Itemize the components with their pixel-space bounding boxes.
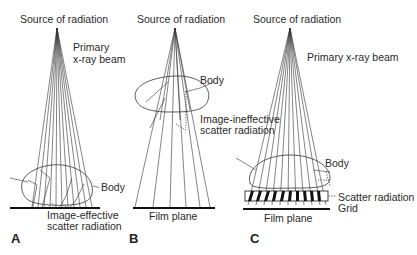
panel-a-source-label: Source of radiation <box>20 13 108 25</box>
panel-a-scatter-label-2: scatter radiation <box>47 220 122 232</box>
panel-a: Source of radiation Primary x-ray beam <box>10 13 126 246</box>
panel-b-body-label: Body <box>200 74 225 86</box>
panel-b-scatter-label-2: scatter radiation <box>200 124 275 136</box>
panel-b-body-outline <box>135 76 209 112</box>
scatter-radiation-diagram: Source of radiation Primary x-ray beam <box>0 0 417 255</box>
panel-b: Source of radiation Body Image-ineffecti… <box>129 13 280 246</box>
panel-a-scatter-marks <box>52 202 66 207</box>
panel-c-body-label: Body <box>325 157 350 169</box>
panel-b-film-label: Film plane <box>149 210 198 222</box>
panel-c-beam-label: Primary x-ray beam <box>307 51 399 63</box>
panel-a-body-outline <box>22 165 93 206</box>
panel-b-letter: B <box>129 231 138 246</box>
panel-c-source-label: Source of radiation <box>253 13 341 25</box>
panel-c-letter: C <box>250 231 260 246</box>
panel-c-film-label: Film plane <box>264 212 313 224</box>
panel-a-body-label: Body <box>101 181 126 193</box>
panel-c-grid-label: Grid <box>338 202 358 214</box>
panel-c-grid <box>245 191 328 201</box>
panel-a-beam-label-1: Primary <box>73 41 110 53</box>
panel-b-source-label: Source of radiation <box>137 13 225 25</box>
panel-a-letter: A <box>11 231 21 246</box>
panel-c-body-outline <box>249 155 330 188</box>
panel-a-beam-label-2: x-ray beam <box>73 53 126 65</box>
panel-a-body-leader <box>93 186 99 188</box>
